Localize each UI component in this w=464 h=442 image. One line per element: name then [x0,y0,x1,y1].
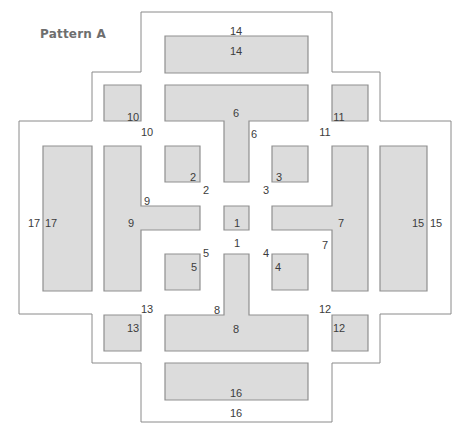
block-9-outer-label: 9 [144,195,150,207]
block-16-outer-label: 16 [230,407,242,419]
block-2-inner-label: 2 [190,171,196,183]
block-5-outer-label: 5 [203,247,209,259]
block-5-inner-label: 5 [191,261,197,273]
block-6-outer-label: 6 [251,128,257,140]
block-12-inner-label: 12 [333,322,345,334]
block-11-inner-label: 11 [333,111,344,123]
block-15-inner-label: 15 [412,217,424,229]
block-13-inner-label: 13 [127,322,139,334]
block-2-outer-label: 2 [203,184,209,196]
block-9-inner-label: 9 [128,217,134,229]
block-3-inner-label: 3 [276,171,282,183]
block-8-outer-label: 8 [214,304,220,316]
block-4-outer-label: 4 [263,247,269,259]
block-12-outer-label: 12 [319,303,331,315]
block-3-outer-label: 3 [263,184,269,196]
block-6-inner-label: 6 [233,107,239,119]
block-16-inner-label: 16 [230,387,242,399]
block-14-outer-label: 14 [230,25,242,37]
block-10-inner-label: 10 [127,111,139,123]
block-1-outer-label: 1 [234,237,240,249]
block-13-outer-label: 13 [141,303,153,315]
block-15-outer-label: 15 [430,217,442,229]
block-17-outer-label: 17 [28,217,40,229]
block-17-inner-label: 17 [45,217,57,229]
floor-plan-diagram: 1122334455667788991010111112121313141415… [0,0,464,442]
block-11-outer-label: 11 [319,126,330,138]
block-7-inner-label: 7 [338,217,344,229]
block-14-inner-label: 14 [230,45,242,57]
block-8-inner-label: 8 [233,323,239,335]
block-1-inner-label: 1 [234,217,240,229]
block-7-outer-label: 7 [322,239,328,251]
block-10-outer-label: 10 [141,126,153,138]
block-4-inner-label: 4 [275,261,281,273]
